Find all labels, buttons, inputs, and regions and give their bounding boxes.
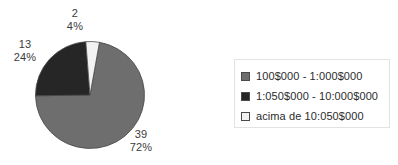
cropped-title-remnant [60,0,240,2]
pie-label-slice-2: 2 4% [52,7,98,33]
pie-label-slice-2-percent: 4% [52,20,98,33]
legend-item-1[interactable]: 1:050$000 - 10:000$000 [241,87,389,106]
pie-label-slice-0-value: 39 [118,128,164,141]
pie-label-slice-1-value: 13 [2,38,48,51]
legend-label-0: 100$000 - 1:000$000 [256,70,363,83]
pie-label-slice-2-value: 2 [52,7,98,20]
legend-label-1: 1:050$000 - 10:000$000 [256,90,378,103]
pie-label-slice-1: 13 24% [2,38,48,64]
legend-swatch-black [241,92,250,101]
legend-item-2[interactable]: acima de 10:050$000 [241,107,389,126]
pie-label-slice-1-percent: 24% [2,51,48,64]
chart-legend: 100$000 - 1:000$000 1:050$000 - 10:000$0… [234,59,390,128]
pie-label-slice-0: 39 72% [118,128,164,154]
legend-item-0[interactable]: 100$000 - 1:000$000 [241,67,389,86]
legend-swatch-gray [241,72,250,81]
pie-chart-figure: 39 72% 13 24% 2 4% 100$000 - 1:000$000 1… [0,0,398,165]
legend-swatch-white [241,112,250,121]
pie-label-slice-0-percent: 72% [118,141,164,154]
legend-label-2: acima de 10:050$000 [256,110,364,123]
